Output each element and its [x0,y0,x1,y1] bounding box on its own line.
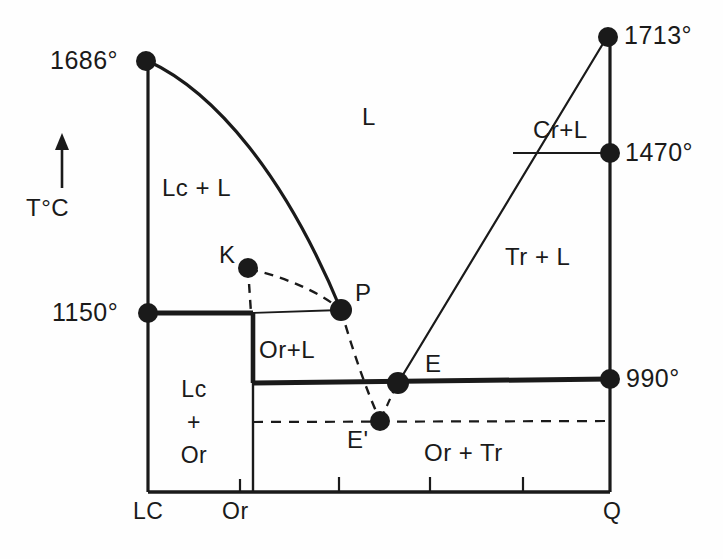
dot-1150 [138,303,158,323]
liquidus-tr [398,37,607,383]
x-axis-label-lc: LC [133,500,163,523]
region-label-tr-plus-l: Tr + L [505,245,570,269]
region-label-lc-plus-or: Lc + Or [166,378,222,467]
temperature-label-990: 990° [626,366,680,391]
metastable-isotherm-e-prime [253,421,610,422]
temperature-label-1470: 1470° [625,140,693,165]
region-label-l: L [362,105,376,129]
region-label-or-plus-tr: Or + Tr [424,441,503,465]
point-label-p: P [355,281,372,305]
point-label-k: K [219,243,236,267]
dot-990 [600,369,620,389]
point-label-e-prime: E' [347,428,369,452]
isotherm-990 [253,379,610,383]
y-axis-label: T°C [26,196,69,220]
region-label-lc-plus-or-line3: Or [166,444,222,467]
dot-point-e-prime [370,411,390,431]
dot-1686 [136,51,156,71]
region-label-cr-plus-l: Cr+L [533,118,588,142]
temperature-label-1713: 1713° [624,23,692,48]
region-label-lc-plus-or-line2: + [166,411,222,434]
dot-1713 [598,27,618,47]
dot-point-k [238,258,258,278]
x-axis-label-q: Q [603,500,621,523]
region-label-lc-plus-l: Lc + L [162,176,231,200]
phase-diagram-figure: 1686° 1713° 1470° 1150° 990° T°C L Lc + … [0,0,723,559]
dot-1470 [600,143,620,163]
temperature-label-1150: 1150° [52,300,118,325]
region-label-lc-plus-or-line1: Lc [166,378,222,401]
point-label-e: E [425,352,442,376]
isotherm-1150-thin [253,310,341,313]
temperature-label-1686: 1686° [50,48,118,73]
y-axis-arrow-icon [55,133,69,188]
dot-point-e [387,372,409,394]
region-label-or-plus-l: Or+L [259,338,315,362]
x-axis-label-or: Or [222,500,249,523]
dot-point-p [330,299,352,321]
metastable-p-to-e-prime [341,310,380,420]
